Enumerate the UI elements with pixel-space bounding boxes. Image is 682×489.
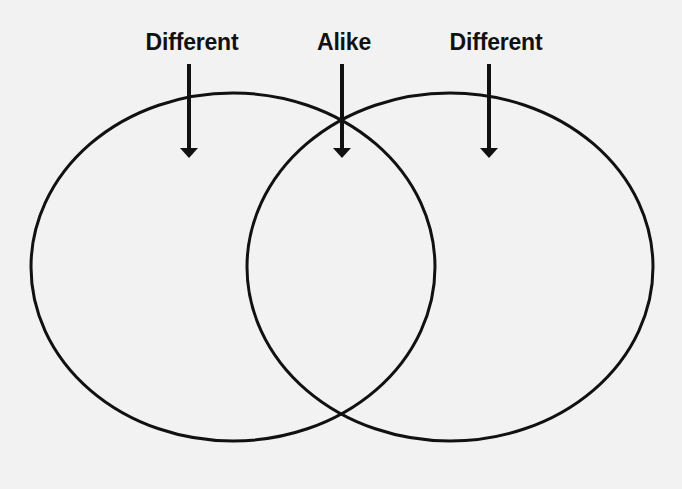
left-arrow-icon <box>180 64 198 158</box>
venn-diagram <box>0 0 682 489</box>
venn-diagram-page: Different Alike Different <box>0 0 682 489</box>
label-left-different: Different <box>146 29 239 56</box>
label-right-different: Different <box>450 29 543 56</box>
label-center-alike: Alike <box>317 29 371 56</box>
right-arrow-icon <box>480 64 498 158</box>
left-circle <box>31 93 435 441</box>
center-arrow-icon <box>333 64 351 158</box>
right-circle <box>247 93 653 441</box>
